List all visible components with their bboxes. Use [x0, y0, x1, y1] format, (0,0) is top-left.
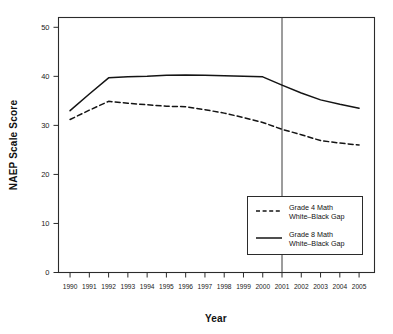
x-tick-label-1998: 1998 — [217, 283, 232, 290]
x-tick-label-1996: 1996 — [178, 283, 193, 290]
y-axis-title: NAEP Scale Score — [8, 100, 19, 191]
x-tick-label-1993: 1993 — [121, 283, 136, 290]
legend-label-grade-8-line1: Grade 8 Math — [289, 230, 333, 239]
x-tick-label-2002: 2002 — [294, 283, 309, 290]
legend-label-grade-8-line2: White–Black Gap — [289, 239, 345, 248]
series-line-grade-4-math — [70, 101, 359, 145]
y-axis-ticks: 01020304050 — [41, 23, 58, 277]
x-tick-label-1992: 1992 — [101, 283, 116, 290]
y-tick-label-20: 20 — [41, 170, 49, 179]
x-tick-label-2001: 2001 — [275, 283, 290, 290]
legend-label-grade-4-line1: Grade 4 Math — [289, 203, 333, 212]
series-line-grade-8-math — [70, 75, 359, 111]
x-tick-label-1999: 1999 — [236, 283, 251, 290]
x-tick-label-1991: 1991 — [82, 283, 97, 290]
x-tick-label-1994: 1994 — [140, 283, 155, 290]
data-series-group — [70, 75, 359, 145]
y-tick-label-0: 0 — [45, 268, 49, 277]
x-tick-label-1995: 1995 — [159, 283, 174, 290]
x-tick-label-2005: 2005 — [352, 283, 367, 290]
x-axis-title: Year — [205, 313, 227, 324]
y-tick-label-10: 10 — [41, 219, 49, 228]
chart-figure: 01020304050 1990199119921993199419951996… — [0, 0, 393, 334]
chart-legend: Grade 4 Math White–Black Gap Grade 8 Mat… — [248, 197, 363, 255]
naep-white-black-gap-line-chart: 01020304050 1990199119921993199419951996… — [0, 0, 393, 334]
y-tick-label-30: 30 — [41, 121, 49, 130]
x-tick-label-2004: 2004 — [332, 283, 347, 290]
x-tick-label-2000: 2000 — [255, 283, 270, 290]
x-tick-label-1997: 1997 — [198, 283, 213, 290]
y-tick-label-40: 40 — [41, 72, 49, 81]
x-tick-label-2003: 2003 — [313, 283, 328, 290]
x-axis-ticks: 1990199119921993199419951996199719981999… — [63, 273, 367, 290]
legend-label-grade-4-line2: White–Black Gap — [289, 212, 345, 221]
y-tick-label-50: 50 — [41, 23, 49, 32]
x-tick-label-1990: 1990 — [63, 283, 78, 290]
